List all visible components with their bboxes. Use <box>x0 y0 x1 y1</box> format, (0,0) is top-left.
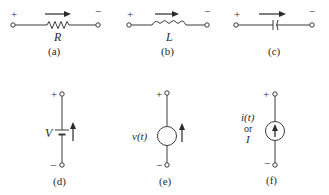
current-arrow-icon <box>45 11 71 17</box>
symbol-label: R <box>53 30 62 44</box>
plus-sign: + <box>51 88 57 100</box>
terminal-icon <box>165 163 169 167</box>
current-arrow-icon <box>259 11 286 17</box>
terminal-icon <box>165 91 169 95</box>
voltage-source-element: + − v(t) (e) <box>132 88 185 188</box>
inductor-element: + − L (b) <box>127 5 210 58</box>
voltage-arrow-icon <box>70 122 76 141</box>
plus-sign: + <box>127 8 133 20</box>
circuit-symbols-diagram: + − R (a) + − L (b) + − <box>0 0 329 195</box>
plus-sign: + <box>263 88 269 100</box>
terminal-icon <box>205 23 209 27</box>
plus-sign: + <box>11 8 17 20</box>
inductor-coil-icon <box>131 21 205 26</box>
battery-icon <box>55 96 69 163</box>
minus-sign: − <box>309 5 315 17</box>
minus-sign: − <box>204 5 210 17</box>
caption: (d) <box>53 175 66 188</box>
caption: (f) <box>266 174 277 187</box>
caption: (a) <box>48 45 61 58</box>
caption: (b) <box>161 45 174 58</box>
minus-sign: − <box>50 159 56 171</box>
terminal-icon <box>273 92 277 96</box>
caption: (e) <box>159 175 172 188</box>
plus-sign: + <box>156 88 162 100</box>
terminal-icon <box>234 23 238 27</box>
terminal-icon <box>60 92 64 96</box>
caption: (c) <box>268 45 281 58</box>
plus-sign: + <box>234 8 240 20</box>
terminal-icon <box>96 23 100 27</box>
symbol-label: v(t) <box>132 130 148 143</box>
minus-sign: − <box>95 5 101 17</box>
terminal-icon <box>11 23 15 27</box>
symbol-label-line3: I <box>245 133 251 145</box>
dc-voltage-source-element: + − V (d) <box>45 88 76 188</box>
current-source-element: + − i(t) or I (f) <box>241 88 285 187</box>
resistor-zigzag-icon <box>15 22 96 29</box>
current-arrow-icon <box>155 11 179 17</box>
terminal-icon <box>60 163 64 167</box>
resistor-element: + − R (a) <box>11 5 101 58</box>
voltage-arrow-icon <box>179 123 185 142</box>
terminal-icon <box>273 163 277 167</box>
minus-sign: − <box>156 159 162 171</box>
symbol-label: L <box>165 30 173 44</box>
capacitor-element: + − (c) <box>234 5 315 58</box>
voltage-source-circle-icon <box>158 127 177 146</box>
symbol-label: V <box>45 126 54 140</box>
terminal-icon <box>127 23 131 27</box>
capacitor-plates-icon <box>238 20 310 30</box>
terminal-icon <box>310 23 314 27</box>
minus-sign: − <box>264 157 270 169</box>
